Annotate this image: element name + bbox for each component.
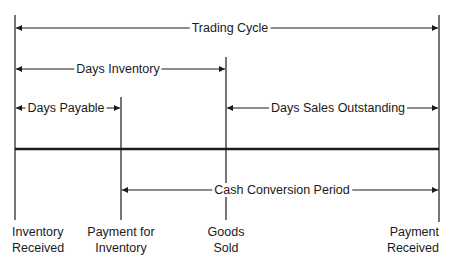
event-label-line1: Inventory: [12, 224, 64, 240]
event-label-inventory-received: Inventory Received: [12, 224, 64, 256]
event-label-line2: Received: [12, 240, 64, 256]
span-label-days-sales-outstanding: Days Sales Outstanding: [269, 101, 407, 115]
span-label-trading-cycle: Trading Cycle: [190, 21, 271, 35]
event-label-goods-sold: Goods Sold: [208, 224, 245, 256]
span-label-days-payable: Days Payable: [25, 101, 106, 115]
event-label-payment-received: Payment Received: [387, 224, 439, 256]
event-label-line2: Inventory: [87, 240, 154, 256]
event-label-line1: Goods: [208, 224, 245, 240]
event-label-line1: Payment for: [87, 224, 154, 240]
event-label-line2: Sold: [208, 240, 245, 256]
span-label-cash-conversion-period: Cash Conversion Period: [212, 183, 352, 197]
event-label-payment-for-inventory: Payment for Inventory: [87, 224, 154, 256]
event-label-line2: Received: [387, 240, 439, 256]
event-label-line1: Payment: [387, 224, 439, 240]
trading-cycle-diagram: [0, 0, 453, 261]
span-label-days-inventory: Days Inventory: [74, 62, 161, 76]
